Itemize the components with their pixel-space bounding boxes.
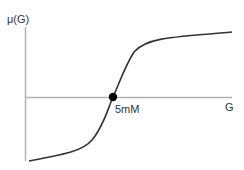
sigmoid-diagram (0, 0, 244, 170)
sigmoid-curve (29, 32, 232, 161)
threshold-point (109, 93, 117, 101)
x-axis-label: G (225, 102, 234, 113)
point-label: 5mM (115, 104, 139, 115)
y-axis-label: μ(G) (7, 14, 29, 25)
